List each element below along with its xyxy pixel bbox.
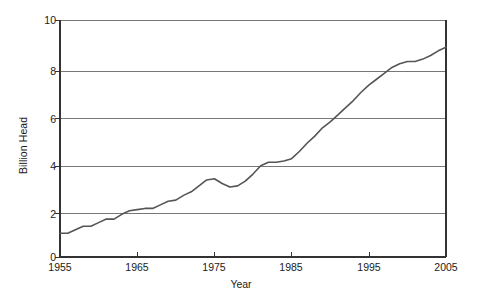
plot-area: [0, 0, 482, 301]
x-tick-marks: [60, 252, 446, 257]
y-tick-marks: [55, 20, 60, 257]
x-axis-label: Year: [0, 278, 482, 290]
x-tick-label: 2005: [434, 261, 457, 273]
data-series-line: [60, 47, 446, 233]
x-tick-label: 1995: [357, 261, 380, 273]
x-tick-label: 1985: [279, 261, 302, 273]
x-tick-label: 1965: [125, 261, 148, 273]
line-chart: Billion Head 10 8 6 4 2 0: [0, 0, 482, 301]
axis-spines: [60, 20, 446, 257]
x-tick-label: 1955: [48, 261, 71, 273]
gridlines: [60, 20, 446, 214]
x-tick-label: 1975: [202, 261, 225, 273]
